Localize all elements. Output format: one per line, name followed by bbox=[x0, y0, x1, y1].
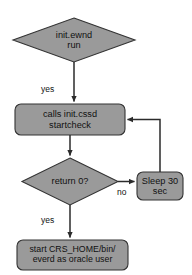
node-sleep-shape bbox=[137, 172, 183, 200]
flowchart-diagram: init.ewnd run calls init.cssd startcheck… bbox=[0, 0, 192, 275]
node-start-shape bbox=[13, 18, 135, 62]
edge-label-no: no bbox=[117, 188, 126, 197]
node-start-crs-shape bbox=[17, 240, 128, 270]
flowchart-canvas bbox=[0, 0, 192, 275]
edge-label-yes-bottom: yes bbox=[41, 216, 54, 225]
node-call-check-shape bbox=[15, 104, 125, 135]
edge-sleep-loop-back-to-call-check bbox=[128, 120, 161, 173]
node-decision-shape bbox=[22, 158, 118, 205]
edge-label-yes-top: yes bbox=[41, 85, 54, 94]
